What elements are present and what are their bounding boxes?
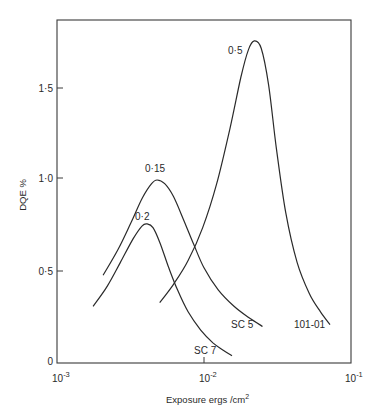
x-tick-label-1e-3: 10-3 [52,370,70,384]
curve-label-101-01: 101-01 [294,319,326,330]
curve-label-0-5: 0·5 [228,45,243,56]
x-axis-title: Exposure ergs /cm2 [166,393,249,405]
y-tick-label-1.0: 1·0 [39,173,54,184]
x-axis: 10-3 10-2 10-1 Exposure ergs /cm2 [52,357,363,405]
curve-label-0-2: 0·2 [135,211,150,222]
plot-frame [57,20,351,363]
y-axis: 1·5 1·0 0·5 0 DQE % [17,83,63,367]
curves [93,41,330,356]
x-tick-label-1e-2: 10-2 [199,370,217,384]
curve-label-sc5: SC 5 [231,319,254,330]
curve-label-sc7: SC 7 [194,345,217,356]
curve-sc-7 [93,224,232,356]
dqe-chart: 1·5 1·0 0·5 0 DQE % 10-3 10-2 10-1 Expos… [0,0,380,416]
curve-label-0-15: 0·15 [145,163,165,174]
y-tick-label-1.5: 1·5 [39,83,54,94]
y-axis-title: DQE % [17,179,28,211]
y-tick-label-0.5: 0·5 [39,266,54,277]
curve-sc-5 [103,180,262,326]
curve-101-01 [160,41,330,325]
x-tick-label-1e-1: 10-1 [345,370,363,384]
y-tick-label-0: 0 [47,356,53,367]
